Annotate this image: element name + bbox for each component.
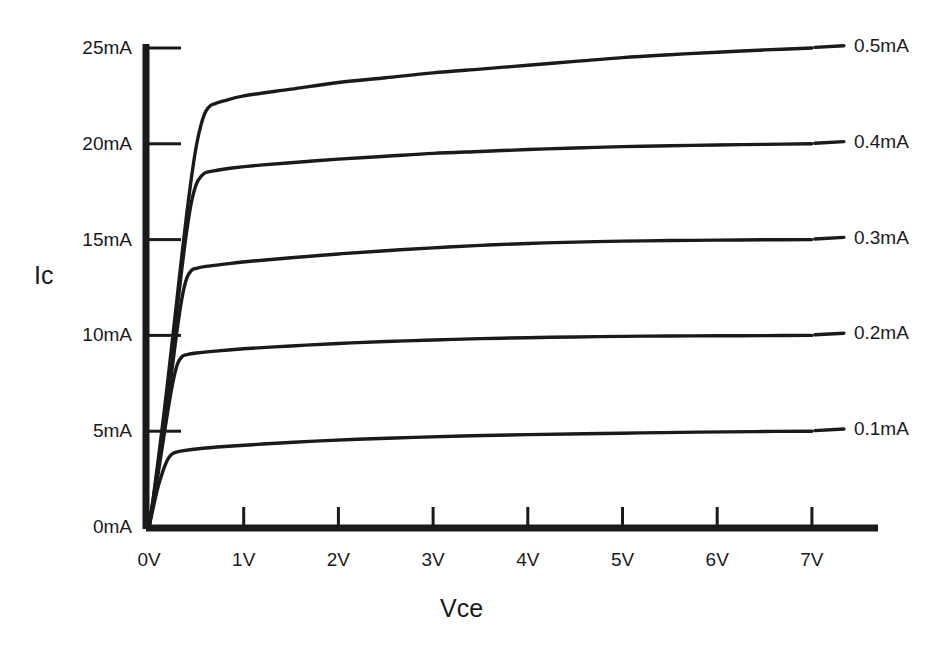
curve-0-5mA bbox=[149, 48, 812, 527]
y-tick-label: 20mA bbox=[20, 134, 132, 153]
series-label: 0.3mA bbox=[854, 228, 909, 247]
x-tick-label: 4V bbox=[488, 550, 568, 569]
y-tick-label: 0mA bbox=[20, 517, 132, 536]
y-tick-label: 5mA bbox=[20, 421, 132, 440]
axis-lines bbox=[146, 44, 878, 529]
x-tick-label: 2V bbox=[298, 550, 378, 569]
y-axis-title: Ic bbox=[34, 263, 53, 288]
y-tick-label: 15mA bbox=[20, 230, 132, 249]
series-label: 0.4mA bbox=[854, 132, 909, 151]
series-leader-dash bbox=[815, 429, 844, 431]
x-axis-title: Vce bbox=[440, 596, 483, 621]
x-axis-ticks bbox=[244, 507, 812, 527]
series-leader-dash bbox=[815, 46, 844, 48]
curve-group bbox=[149, 48, 812, 527]
transistor-characteristic-chart: 0mA5mA10mA15mA20mA25mA 0V1V2V3V4V5V6V7V … bbox=[0, 0, 930, 654]
x-tick-label: 1V bbox=[204, 550, 284, 569]
series-leader-dash bbox=[815, 333, 844, 335]
x-tick-label: 7V bbox=[772, 550, 852, 569]
y-axis-ticks bbox=[149, 48, 181, 527]
curve-0-1mA bbox=[149, 431, 812, 527]
series-label: 0.2mA bbox=[854, 323, 909, 342]
x-tick-label: 6V bbox=[677, 550, 757, 569]
series-label-leaders bbox=[815, 46, 844, 431]
series-leader-dash bbox=[815, 237, 844, 239]
series-leader-dash bbox=[815, 142, 844, 144]
y-tick-label: 25mA bbox=[20, 38, 132, 57]
series-label: 0.5mA bbox=[854, 36, 909, 55]
x-tick-label: 3V bbox=[393, 550, 473, 569]
x-tick-label: 5V bbox=[583, 550, 663, 569]
series-label: 0.1mA bbox=[854, 419, 909, 438]
y-tick-label: 10mA bbox=[20, 325, 132, 344]
curve-0-3mA bbox=[149, 240, 812, 527]
x-tick-label: 0V bbox=[109, 550, 189, 569]
